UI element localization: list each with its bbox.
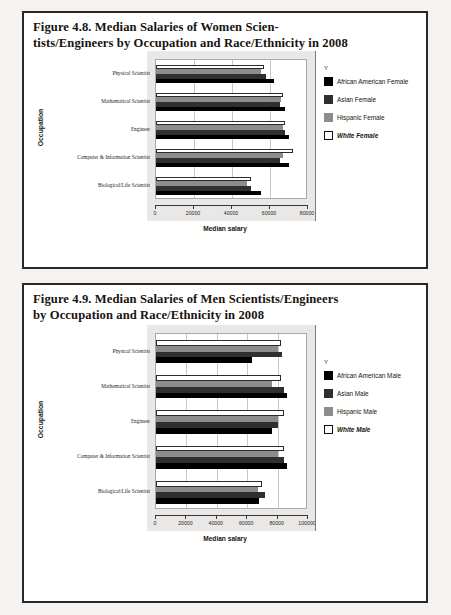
plot-area (155, 59, 307, 199)
axis-tick-label: 80000 (300, 210, 314, 216)
legend-divider (315, 325, 316, 531)
axis-tick (307, 515, 308, 519)
axis-tick (185, 515, 186, 519)
category-label: Mathematical Scientist (29, 98, 150, 104)
plot-area (155, 333, 307, 509)
legend-item[interactable]: White Female (324, 131, 408, 140)
legend-item[interactable]: White Male (324, 425, 401, 434)
legend-label: Hispanic Female (337, 114, 385, 121)
legend-label: African American Female (337, 78, 408, 85)
women-scientists-salary-chart: Physical ScientistMathematical Scientist… (24, 51, 426, 247)
legend-label: White Female (337, 132, 378, 139)
bar (156, 428, 272, 434)
figure-4-9-container: Figure 4.9. Median Salaries of Men Scien… (22, 283, 428, 603)
category-label: Biological/Life Scientist (29, 182, 150, 188)
category-label: Biological/Life Scientist (29, 488, 150, 494)
figure-4-9-title-line2: by Occupation and Race/Ethnicity in 2008 (33, 308, 417, 324)
axis-tick (269, 205, 270, 209)
axis-tick (216, 515, 217, 519)
legend-swatch-icon (324, 389, 333, 398)
x-axis-line (155, 515, 307, 516)
x-axis-title: Median salary (24, 535, 426, 542)
category-label: Computer & Information Scientist (29, 154, 150, 160)
bar (156, 163, 289, 168)
legend-label: White Male (337, 426, 370, 433)
axis-tick (246, 515, 247, 519)
legend-item[interactable]: Asian Male (324, 389, 401, 398)
legend-swatch-icon (324, 371, 333, 380)
bar (156, 357, 252, 363)
axis-tick (193, 205, 194, 209)
category-label: Engineer (29, 126, 150, 132)
axis-tick (155, 205, 156, 209)
axis-tick (307, 205, 308, 209)
y-axis-title: Occupation (37, 390, 44, 450)
men-scientists-salary-chart: Physical ScientistMathematical Scientist… (24, 323, 426, 573)
legend-swatch-icon (324, 407, 333, 416)
legend-item[interactable]: African American Male (324, 371, 401, 380)
category-label: Physical Scientist (29, 348, 150, 354)
category-label: Engineer (29, 418, 150, 424)
bar (156, 79, 274, 84)
legend-item[interactable]: Hispanic Male (324, 407, 401, 416)
axis-tick-label: 0 (154, 210, 157, 216)
bar (156, 393, 287, 399)
legend-swatch-icon (324, 131, 333, 140)
chart-canvas-men: Physical ScientistMathematical Scientist… (24, 323, 426, 573)
legend-swatch-icon (324, 113, 333, 122)
y-axis-title: Occupation (37, 98, 44, 158)
axis-tick-label: 60000 (239, 520, 253, 526)
legend-divider (315, 51, 316, 221)
figure-4-9-title-line1: Figure 4.9. Median Salaries of Men Scien… (33, 292, 417, 308)
axis-tick (155, 515, 156, 519)
axis-tick-label: 40000 (224, 210, 238, 216)
axis-tick-label: 20000 (186, 210, 200, 216)
legend-swatch-icon (324, 95, 333, 104)
figure-4-9-title: Figure 4.9. Median Salaries of Men Scien… (24, 285, 426, 323)
legend-item[interactable]: African American Female (324, 77, 408, 86)
figure-4-8-title: Figure 4.8. Median Salaries of Women Sci… (24, 13, 426, 51)
axis-tick (277, 515, 278, 519)
figure-4-8-title-line1: Figure 4.8. Median Salaries of Women Sci… (33, 20, 417, 36)
chart-canvas-women: Physical ScientistMathematical Scientist… (24, 51, 426, 247)
axis-tick-label: 60000 (262, 210, 276, 216)
legend-title: Y (324, 65, 408, 71)
bar (156, 498, 259, 504)
axis-tick-label: 80000 (269, 520, 283, 526)
axis-tick-label: 20000 (178, 520, 192, 526)
legend-swatch-icon (324, 77, 333, 86)
gridline (278, 334, 279, 508)
legend-item[interactable]: Asian Female (324, 95, 408, 104)
legend-item[interactable]: Hispanic Female (324, 113, 408, 122)
axis-tick-label: 40000 (209, 520, 223, 526)
x-axis-title: Median salary (24, 225, 426, 232)
bar (156, 191, 261, 196)
document-page: Figure 4.8. Median Salaries of Women Sci… (0, 0, 451, 615)
category-label: Mathematical Scientist (29, 383, 150, 389)
category-label: Physical Scientist (29, 70, 150, 76)
chart-legend: YAfrican American MaleAsian MaleHispanic… (324, 359, 401, 443)
legend-label: Asian Female (337, 96, 376, 103)
axis-tick (231, 205, 232, 209)
bar (156, 463, 287, 469)
axis-tick-label: 100000 (298, 520, 315, 526)
bar (156, 135, 289, 140)
legend-title: Y (324, 359, 401, 365)
legend-label: Hispanic Male (337, 408, 377, 415)
legend-label: African American Male (337, 372, 401, 379)
figure-4-8-container: Figure 4.8. Median Salaries of Women Sci… (22, 11, 428, 269)
category-label: Computer & Information Scientist (29, 453, 150, 459)
chart-legend: YAfrican American FemaleAsian FemaleHisp… (324, 65, 408, 149)
axis-tick-label: 0 (154, 520, 157, 526)
bar (156, 107, 285, 112)
figure-4-8-title-line2: tists/Engineers by Occupation and Race/E… (33, 36, 417, 52)
legend-label: Asian Male (337, 390, 369, 397)
legend-swatch-icon (324, 425, 333, 434)
